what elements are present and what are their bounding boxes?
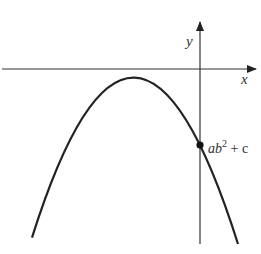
y-axis-label: y	[184, 33, 193, 49]
y-intercept-point	[196, 141, 203, 148]
diagram-canvas: y x ab2 + c	[0, 0, 261, 254]
intercept-label: ab2 + c	[208, 138, 248, 156]
parabola-curve	[32, 78, 238, 244]
x-axis-label: x	[240, 71, 248, 87]
